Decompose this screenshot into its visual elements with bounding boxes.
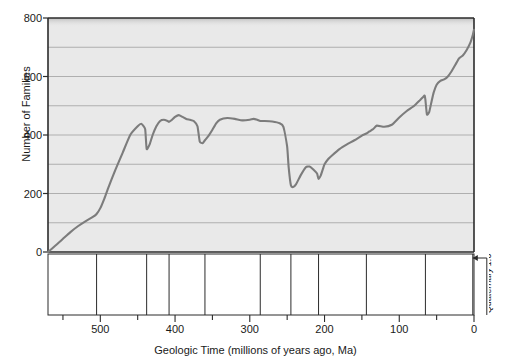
plot-area [0, 0, 511, 363]
geologic-diversity-chart: Number of Families 0200400600800 5004003… [0, 0, 511, 363]
